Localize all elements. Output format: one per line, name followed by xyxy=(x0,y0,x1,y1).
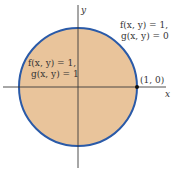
outside-label-f: f(x, y) = 1, xyxy=(120,20,168,30)
unit-circle-diagram: x y (1, 0) f(x, y) = 1, g(x, y) = 1 f(x,… xyxy=(0,0,175,179)
x-axis-label: x xyxy=(165,89,170,99)
outside-label-g: g(x, y) = 0 xyxy=(121,31,169,41)
inside-label-f: f(x, y) = 1, xyxy=(28,58,76,68)
point-marker xyxy=(135,85,139,89)
inside-label-g: g(x, y) = 1 xyxy=(31,69,79,79)
y-axis-label: y xyxy=(80,5,87,15)
point-label: (1, 0) xyxy=(140,75,164,85)
